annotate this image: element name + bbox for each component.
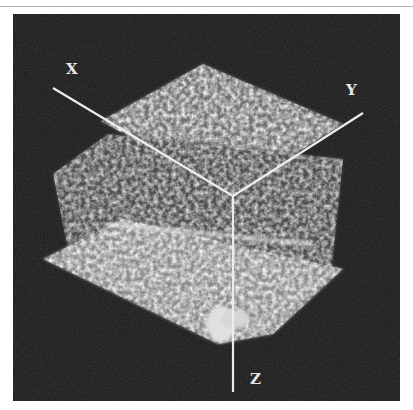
y-axis-label: Y <box>346 83 357 98</box>
page-top-rule <box>0 6 413 7</box>
x-axis-label: X <box>66 62 78 77</box>
z-axis-label: Z <box>250 372 261 387</box>
volume-render-figure: X Y Z <box>13 14 400 401</box>
